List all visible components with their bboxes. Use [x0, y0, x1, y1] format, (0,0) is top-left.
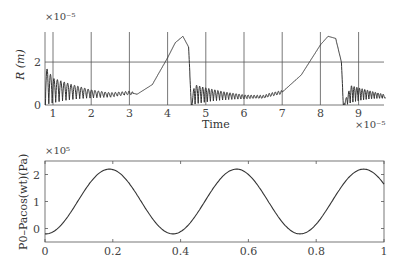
y-tick-label: 1	[33, 196, 40, 209]
top-x-exponent: ×10⁻⁵	[355, 119, 385, 130]
x-tick-label: 4	[164, 107, 171, 120]
x-tick-label: 7	[279, 107, 286, 120]
x-tick-label: 3	[126, 107, 133, 120]
x-tick-label: 0	[42, 245, 49, 258]
bottom-y-label: P0–Pacos(wt)(Pa)	[17, 154, 30, 250]
top-plot: 12345678902	[34, 32, 385, 120]
x-tick-label: 0.8	[307, 245, 325, 258]
top-x-label: Time	[202, 118, 230, 131]
radius-curve	[45, 36, 385, 105]
y-tick-label: 0	[33, 223, 40, 236]
x-tick-label: 0.4	[172, 245, 190, 258]
plot-frame	[45, 161, 384, 242]
x-tick-label: 2	[88, 107, 95, 120]
bottom-y-exponent: ×10⁵	[45, 145, 70, 156]
y-tick-label: 2	[33, 169, 40, 182]
x-tick-label: 8	[317, 107, 324, 120]
x-tick-label: 1	[50, 107, 57, 120]
x-tick-label: 0.6	[240, 245, 258, 258]
top-y-exponent: ×10⁻⁵	[45, 11, 75, 22]
y-tick-label: 2	[34, 56, 41, 69]
figure: 12345678902 00.20.40.60.81012 ×10⁻⁵ ×10⁻…	[0, 0, 405, 271]
x-tick-label: 0.2	[104, 245, 122, 258]
y-tick-label: 0	[34, 99, 41, 112]
x-tick-label: 1	[381, 245, 388, 258]
top-y-label: R (m)	[14, 49, 27, 81]
bottom-plot: 00.20.40.60.81012	[33, 161, 388, 258]
pressure-curve	[45, 169, 384, 234]
x-tick-label: 6	[241, 107, 248, 120]
